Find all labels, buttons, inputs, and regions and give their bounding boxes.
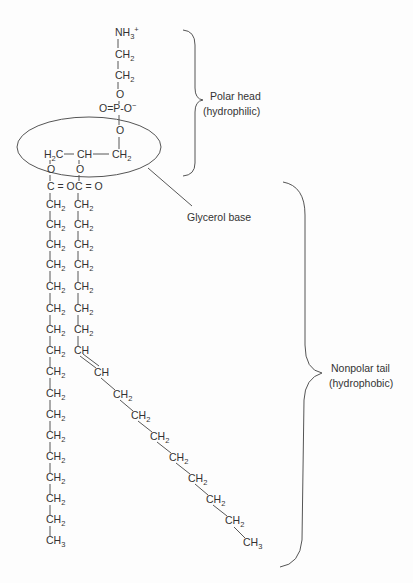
left-tail-ch2: CH2 — [46, 344, 65, 359]
left-tail-ch2: CH2 — [46, 258, 65, 273]
polar-head-label: Polar head — [210, 90, 261, 102]
right-tail-ch3: CH3 — [243, 536, 262, 551]
phospholipid-diagram: NH3+CH2CH2OO=P-O−O H2CCHCH2OOC = OC = O … — [0, 0, 413, 583]
right-tail-ch2: CH2 — [74, 302, 93, 317]
right-tail-ch2: CH2 — [74, 323, 93, 338]
nonpolar-tail-sublabel: (hydrophobic) — [329, 377, 393, 389]
right-tail-ch2-diagonal: CH2 — [150, 430, 169, 445]
left-tail-ch2: CH2 — [46, 387, 65, 402]
right-tail-ch2: CH2 — [74, 258, 93, 273]
left-tail-ch2: CH2 — [46, 302, 65, 317]
left-tail-ch2: CH2 — [46, 198, 65, 213]
right-tail-ch2: CH2 — [74, 280, 93, 295]
left-tail-ch2: CH2 — [46, 218, 65, 233]
atom-co_left: C = O — [47, 180, 75, 192]
right-tail-ch-double-2: CH — [94, 366, 109, 378]
right-tail-ch2: CH2 — [74, 218, 93, 233]
right-tail-ch2: CH2 — [74, 238, 93, 253]
right-tail-ch2-diagonal: CH2 — [113, 388, 132, 403]
atom-c3: CH2 — [112, 148, 131, 163]
right-tail-ch2: CH2 — [74, 198, 93, 213]
diagram-svg: NH3+CH2CH2OO=P-O−O H2CCHCH2OOC = OC = O … — [0, 0, 413, 583]
left-tail-ch2: CH2 — [46, 492, 65, 507]
left-tail-ch2: CH2 — [46, 238, 65, 253]
left-tail-ch2: CH2 — [46, 280, 65, 295]
glycerol-leader-line — [148, 168, 192, 206]
right-tail-ch2-diagonal: CH2 — [225, 514, 244, 529]
right-tail-ch2-diagonal: CH2 — [131, 409, 150, 424]
atom-ch2b: CH2 — [115, 69, 134, 84]
left-tail-ch3: CH3 — [46, 534, 65, 549]
nonpolar-tail-label: Nonpolar tail — [331, 362, 390, 374]
left-fatty-acid-tail: CH2CH2CH2CH2CH2CH2CH2CH2CH2CH2CH2CH2CH2C… — [46, 193, 65, 549]
right-tail-ch2-diagonal: CH2 — [188, 472, 207, 487]
polar-head-brace — [183, 30, 203, 176]
glycerol-atoms: H2CCHCH2OOC = OC = O — [44, 148, 131, 192]
atom-c1: H2C — [44, 148, 64, 163]
left-tail-ch2: CH2 — [46, 471, 65, 486]
atom-o_left: O — [47, 163, 55, 175]
atom-c2: CH — [77, 148, 92, 160]
nonpolar-tail-brace — [280, 182, 322, 567]
left-tail-ch2: CH2 — [46, 513, 65, 528]
left-tail-ch2: CH2 — [46, 365, 65, 380]
atom-o2: O — [116, 124, 124, 136]
left-tail-ch2: CH2 — [46, 450, 65, 465]
left-tail-ch2: CH2 — [46, 429, 65, 444]
right-tail-ch2-diagonal: CH2 — [206, 493, 225, 508]
left-tail-ch2: CH2 — [46, 408, 65, 423]
polar-head-sublabel: (hydrophilic) — [203, 105, 260, 117]
glycerol-base-label: Glycerol base — [187, 211, 251, 223]
atom-nh3: NH3+ — [115, 25, 139, 41]
atom-o1: O — [116, 88, 124, 100]
glycerol-highlight-ellipse — [17, 117, 161, 177]
right-fatty-acid-tail: CH2CH2CH2CH2CH2CH2CH2CHCHCH2CH2CH2CH2CH2… — [74, 193, 262, 551]
atom-phosphate: O=P-O− — [99, 101, 137, 114]
left-tail-ch2: CH2 — [46, 323, 65, 338]
atom-o_right: O — [76, 163, 84, 175]
atom-ch2a: CH2 — [115, 48, 134, 63]
right-tail-ch2-diagonal: CH2 — [169, 451, 188, 466]
atom-co_right: C = O — [75, 180, 103, 192]
right-tail-ch-double-1: CH — [74, 344, 89, 356]
